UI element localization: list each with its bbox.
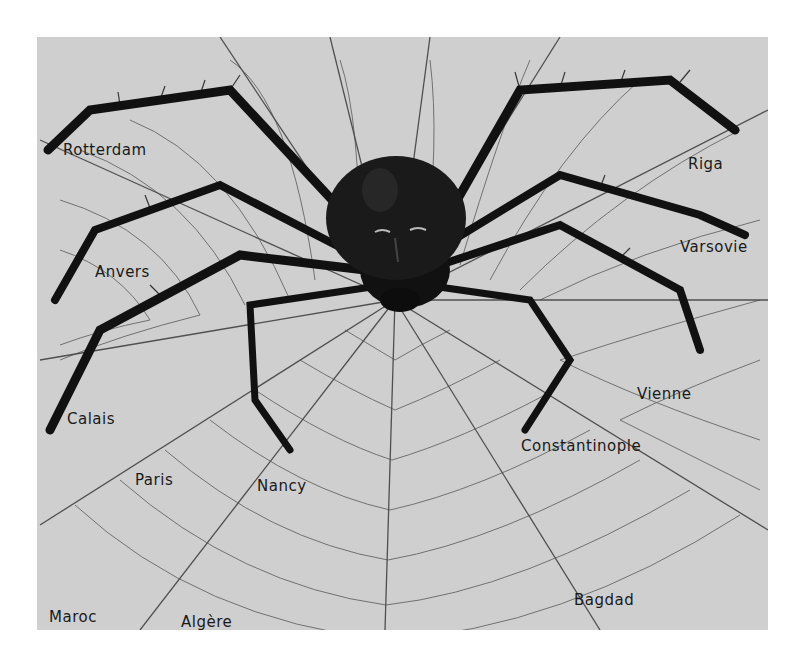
- label-maroc: Maroc: [49, 608, 97, 626]
- label-nancy: Nancy: [257, 477, 307, 495]
- label-vienne: Vienne: [637, 385, 692, 403]
- label-algere: Algère: [181, 613, 232, 630]
- label-varsovie: Varsovie: [680, 238, 748, 256]
- label-rotterdam: Rotterdam: [63, 141, 147, 159]
- label-anvers: Anvers: [95, 263, 150, 281]
- spider-web-caricature: Rotterdam Anvers Calais Paris Nancy Maro…: [37, 37, 768, 630]
- label-bagdad: Bagdad: [574, 591, 634, 609]
- label-paris: Paris: [135, 471, 173, 489]
- label-riga: Riga: [688, 155, 723, 173]
- label-constantinople: Constantinople: [521, 437, 641, 455]
- web-spokes: [40, 37, 768, 630]
- web-rings: [60, 60, 760, 630]
- label-calais: Calais: [67, 410, 115, 428]
- web-drawing: [37, 37, 768, 630]
